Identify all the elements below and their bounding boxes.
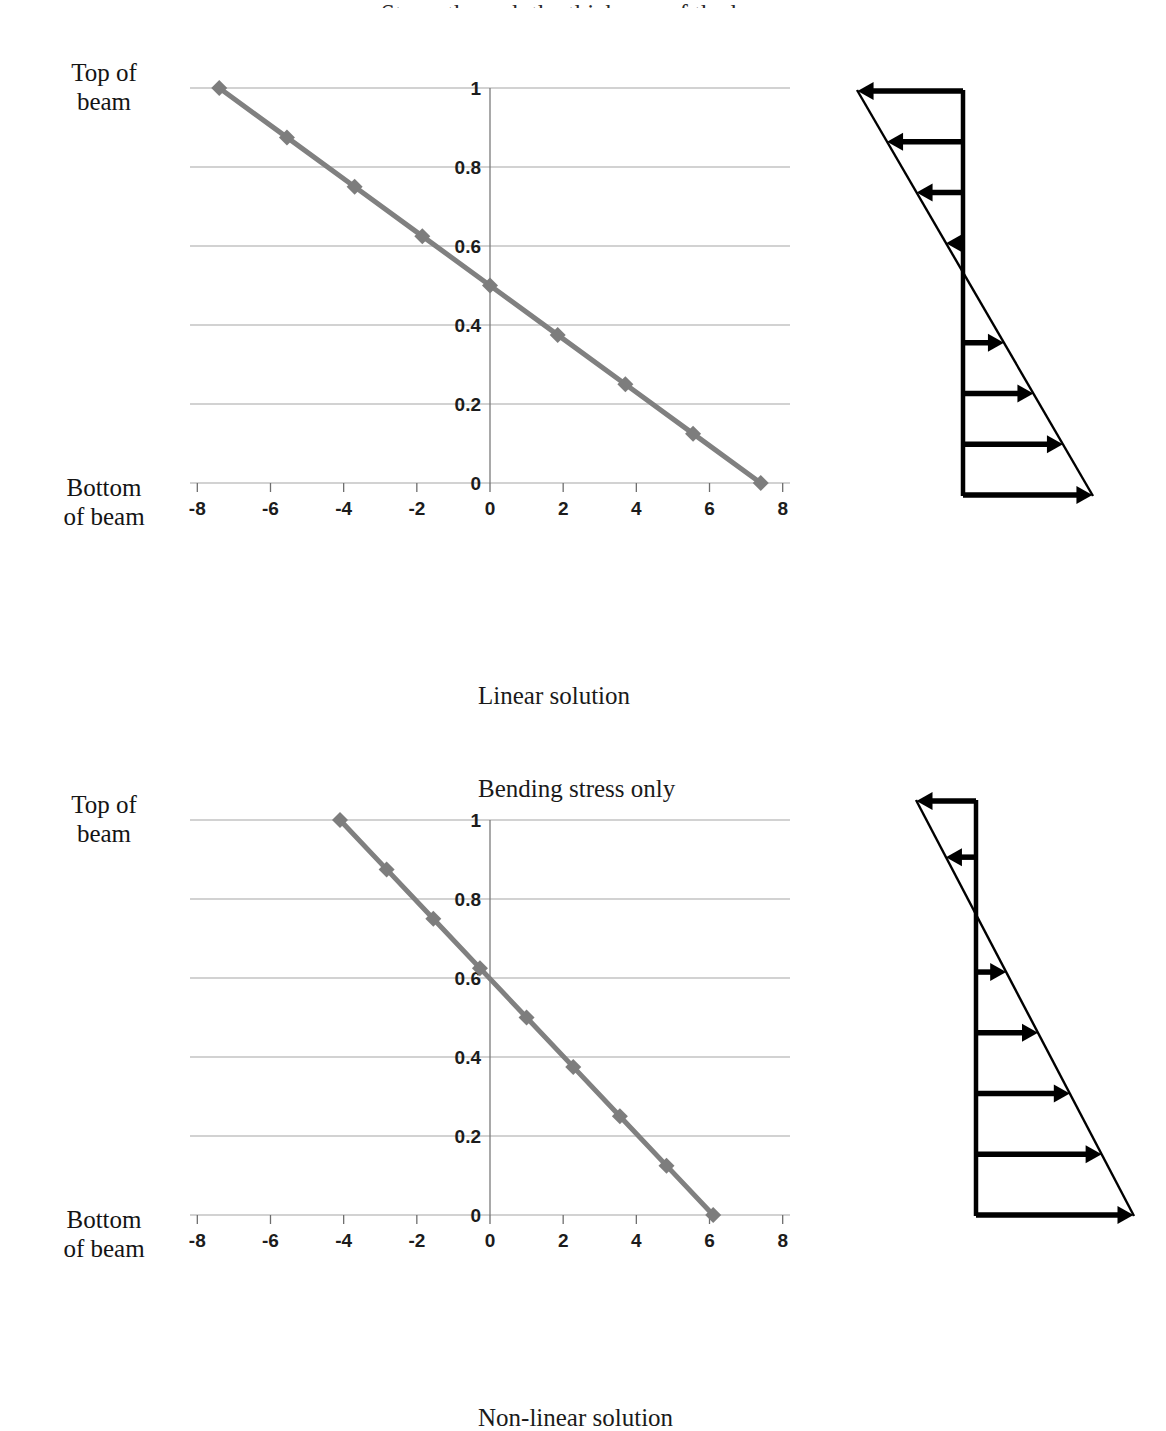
x-tick-label: 8 [777, 498, 788, 519]
y-tick-label: 0.8 [455, 889, 481, 910]
x-tick-label: 0 [485, 1230, 496, 1251]
bottom-of-beam-label-nonlinear: Bottom of beam [24, 1205, 184, 1263]
bending-stress-distribution [845, 78, 1145, 508]
x-tick-label: -4 [335, 498, 352, 519]
x-tick-label: -4 [335, 1230, 352, 1251]
y-tick-label: 1 [470, 78, 481, 99]
y-tick-label: 0.2 [455, 1126, 481, 1147]
x-tick-label: 4 [631, 1230, 642, 1251]
y-tick-label: 0.2 [455, 394, 481, 415]
y-tick-label: 0.8 [455, 157, 481, 178]
x-tick-label: 2 [558, 1230, 569, 1251]
x-tick-label: 6 [704, 1230, 715, 1251]
bending-stress-diagram [845, 78, 1145, 508]
bottom-of-beam-label-linear: Bottom of beam [24, 473, 184, 531]
stress-slope-line [857, 90, 1093, 496]
y-tick-label: 0 [470, 473, 481, 494]
x-tick-label: -6 [262, 1230, 279, 1251]
top-of-beam-label-linear: Top of beam [24, 58, 184, 116]
nonlinear-solution-chart: -8-6-4-20246800.20.40.60.81 [170, 802, 810, 1277]
combined-stress-diagram [890, 788, 1166, 1228]
linear-solution-plot: -8-6-4-20246800.20.40.60.81 [170, 70, 810, 545]
y-tick-label: 0 [470, 1205, 481, 1226]
top-of-beam-label-nonlinear: Top of beam [24, 790, 184, 848]
x-tick-label: 4 [631, 498, 642, 519]
x-tick-label: 8 [777, 1230, 788, 1251]
linear-solution-panel: Top of beam Bottom of beam -8-6-4-202468… [0, 0, 1166, 700]
linear-solution-chart: -8-6-4-20246800.20.40.60.81 [170, 70, 810, 545]
y-tick-label: 0.4 [455, 315, 482, 336]
y-tick-label: 0.4 [455, 1047, 482, 1068]
caption-line-1: Non-linear solution [478, 1402, 731, 1431]
y-tick-label: 0.6 [455, 236, 481, 257]
x-tick-label: 6 [704, 498, 715, 519]
nonlinear-solution-panel: Top of beam Bottom of beam -8-6-4-202468… [0, 720, 1166, 1431]
caption-line-1: Linear solution [478, 680, 675, 711]
x-tick-label: -8 [189, 1230, 206, 1251]
y-tick-label: 1 [470, 810, 481, 831]
x-tick-label: 0 [485, 498, 496, 519]
x-tick-label: -8 [189, 498, 206, 519]
nonlinear-solution-caption: Non-linear solution Superposition of ben… [478, 1340, 731, 1431]
x-tick-label: -2 [408, 1230, 425, 1251]
combined-stress-distribution [890, 788, 1166, 1228]
nonlinear-solution-plot: -8-6-4-20246800.20.40.60.81 [170, 802, 810, 1277]
x-tick-label: 2 [558, 498, 569, 519]
x-tick-label: -6 [262, 498, 279, 519]
x-tick-label: -2 [408, 498, 425, 519]
